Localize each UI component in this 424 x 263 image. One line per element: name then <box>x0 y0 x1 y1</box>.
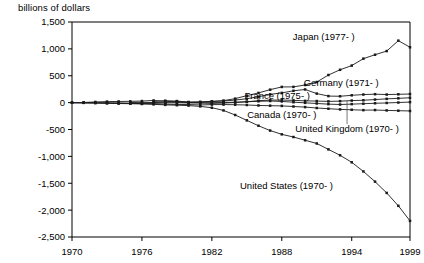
data-point-marker <box>211 101 214 104</box>
data-point-marker <box>409 110 412 113</box>
data-point-marker <box>327 95 330 98</box>
data-point-marker <box>327 148 330 151</box>
data-point-marker <box>362 99 365 102</box>
data-point-marker <box>269 104 272 107</box>
data-point-marker <box>397 109 400 112</box>
x-tick-label: 1994 <box>341 246 362 257</box>
data-point-marker <box>374 102 377 105</box>
data-point-marker <box>281 105 284 108</box>
data-point-marker <box>350 94 353 97</box>
data-point-marker <box>257 104 260 107</box>
data-point-marker <box>374 180 377 183</box>
data-point-marker <box>350 64 353 67</box>
data-point-marker <box>339 108 342 111</box>
data-point-marker <box>409 93 412 96</box>
data-point-marker <box>362 109 365 112</box>
data-point-marker <box>281 133 284 136</box>
series-label-france: France (1975- ) <box>244 90 309 101</box>
data-point-marker <box>409 97 412 100</box>
x-tick-label: 1970 <box>61 246 82 257</box>
data-point-marker <box>397 97 400 100</box>
data-point-marker <box>71 101 74 104</box>
data-point-marker <box>409 220 412 223</box>
series-line-united-states <box>72 103 410 221</box>
y-tick-label: 1,500 <box>41 16 65 27</box>
x-tick-label: 1999 <box>399 246 420 257</box>
data-point-marker <box>316 102 319 105</box>
series-label-germany: Germany (1971- ) <box>304 77 379 88</box>
data-point-marker <box>292 105 295 108</box>
data-point-marker <box>292 101 295 104</box>
x-tick-label: 1982 <box>201 246 222 257</box>
data-point-marker <box>152 103 155 106</box>
data-point-marker <box>304 102 307 105</box>
data-point-marker <box>327 107 330 110</box>
y-tick-label: 500 <box>49 70 65 81</box>
data-point-marker <box>316 100 319 103</box>
data-point-marker <box>106 102 109 105</box>
y-tick-label: -1,000 <box>38 151 65 162</box>
series-label-united-states: United States (1970- ) <box>240 180 333 191</box>
series-label-united-kingdom: United Kingdom (1970- ) <box>295 123 399 134</box>
data-point-marker <box>199 102 202 105</box>
data-point-marker <box>374 109 377 112</box>
data-point-marker <box>409 46 412 49</box>
data-point-marker <box>187 102 190 105</box>
data-point-marker <box>339 100 342 103</box>
data-point-marker <box>397 93 400 96</box>
y-tick-label: -1,500 <box>38 178 65 189</box>
data-point-marker <box>397 101 400 104</box>
data-point-marker <box>316 92 319 95</box>
series-label-japan: Japan (1977- ) <box>293 31 355 42</box>
y-tick-label: -2,500 <box>38 231 65 242</box>
data-point-marker <box>211 106 214 109</box>
data-point-marker <box>292 86 295 89</box>
data-point-marker <box>292 136 295 139</box>
x-tick-label: 1988 <box>271 246 292 257</box>
y-tick-label: -2,000 <box>38 205 65 216</box>
data-point-marker <box>409 101 412 104</box>
data-point-marker <box>234 99 237 102</box>
data-point-marker <box>385 109 388 112</box>
x-tick-label: 1976 <box>131 246 152 257</box>
data-point-marker <box>234 114 237 117</box>
data-point-marker <box>94 102 97 105</box>
data-point-marker <box>339 95 342 98</box>
x-axis-tick-labels: 197019761982198819941999 <box>61 246 420 257</box>
data-point-marker <box>362 170 365 173</box>
series-label-canada: Canada (1970- ) <box>247 109 316 120</box>
data-point-marker <box>350 99 353 102</box>
data-point-marker <box>246 104 249 107</box>
data-point-marker <box>234 101 237 104</box>
data-point-marker <box>350 161 353 164</box>
data-point-marker <box>257 124 260 127</box>
data-point-marker <box>176 104 179 107</box>
y-tick-label: 1,000 <box>41 43 65 54</box>
data-point-marker <box>269 129 272 132</box>
data-point-marker <box>164 104 167 107</box>
data-point-marker <box>362 57 365 60</box>
data-point-marker <box>281 86 284 89</box>
data-point-marker <box>117 102 120 105</box>
data-point-marker <box>339 103 342 106</box>
data-point-marker <box>385 93 388 96</box>
data-point-marker <box>327 100 330 103</box>
data-point-marker <box>304 139 307 142</box>
data-point-marker <box>374 53 377 56</box>
data-point-marker <box>222 109 225 112</box>
y-tick-label: -500 <box>46 124 65 135</box>
data-point-marker <box>199 105 202 108</box>
data-point-marker <box>397 39 400 42</box>
data-point-marker <box>129 102 132 105</box>
x-axis-tick-marks <box>72 237 410 241</box>
chart-container: billions of dollars 1,5001,0005000-500-1… <box>0 0 424 263</box>
data-point-marker <box>362 93 365 96</box>
data-point-marker <box>141 103 144 106</box>
data-point-marker <box>222 101 225 104</box>
data-point-marker <box>339 154 342 157</box>
data-point-marker <box>374 93 377 96</box>
data-point-marker <box>385 192 388 195</box>
data-point-marker <box>350 109 353 112</box>
line-chart-plot: 1,5001,0005000-500-1,000-1,500-2,000-2,5… <box>0 0 424 263</box>
data-point-marker <box>385 98 388 101</box>
